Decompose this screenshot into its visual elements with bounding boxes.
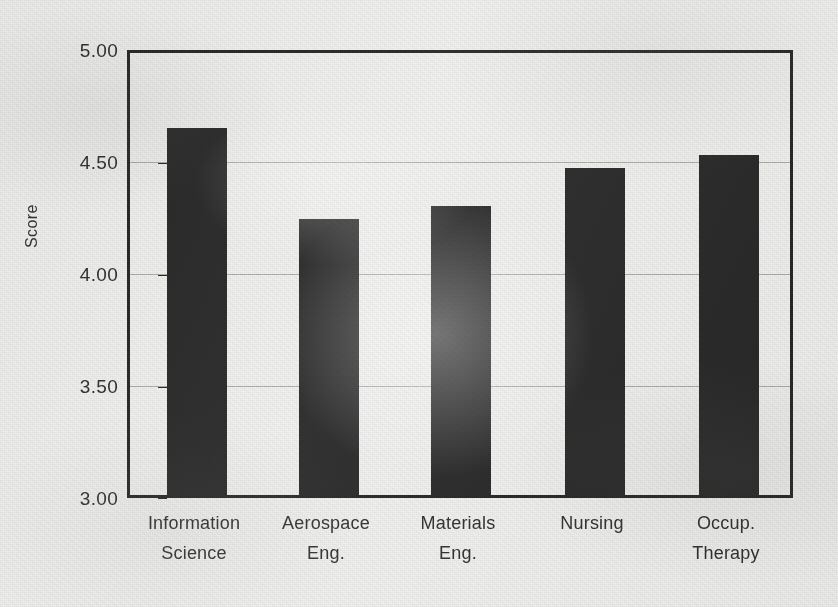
bar-aerospace-eng[interactable]: [299, 219, 359, 495]
y-tick-label-5-00: 5.00: [46, 40, 118, 62]
y-tick-label-3-00: 3.00: [46, 488, 118, 510]
y-tick-label-4-00: 4.00: [46, 264, 118, 286]
x-tick-line-1: Occup.: [636, 508, 816, 538]
bar-information-science[interactable]: [167, 128, 227, 495]
bar-nursing[interactable]: [565, 168, 625, 495]
y-tick-label-4-50: 4.50: [46, 152, 118, 174]
x-tick-line-2: Eng.: [368, 538, 548, 568]
bar-materials-eng[interactable]: [431, 206, 491, 495]
y-tick-label-3-50: 3.50: [46, 376, 118, 398]
bars-layer: [130, 53, 790, 495]
bar-chart: Score 5.00 4.50 4.00 3.50 3.00 Informati…: [0, 0, 838, 607]
y-axis-title: Score: [23, 204, 41, 248]
plot-area: [127, 50, 793, 498]
x-tick-label-occup-therapy: Occup. Therapy: [636, 508, 816, 568]
bar-occup-therapy[interactable]: [699, 155, 759, 495]
x-tick-line-2: Therapy: [636, 538, 816, 568]
x-axis-tick-labels: Information Science Aerospace Eng. Mater…: [0, 508, 838, 588]
